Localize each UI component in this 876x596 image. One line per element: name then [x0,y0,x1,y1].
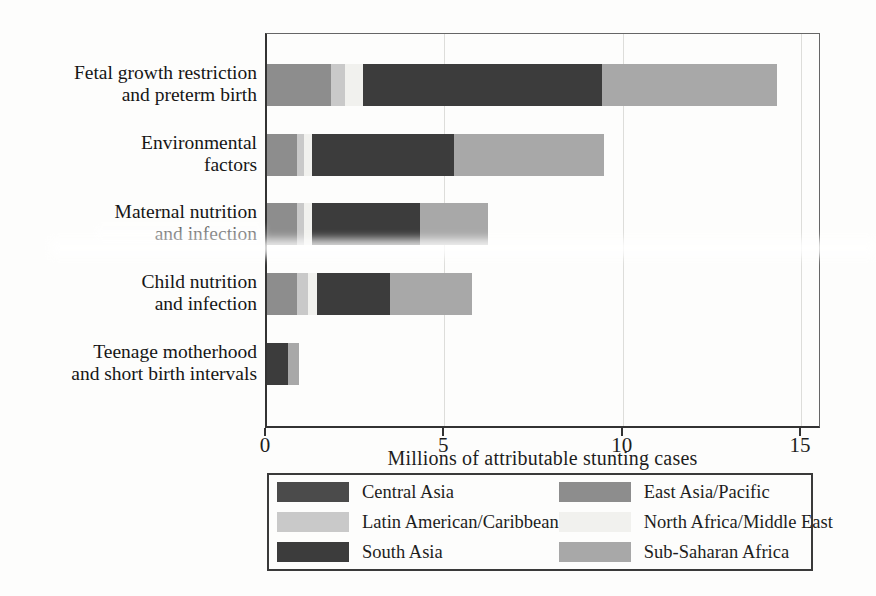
legend-swatch [277,542,349,562]
bar-segment [454,134,604,176]
legend-label: Sub-Saharan Africa [644,542,789,563]
gridline-15 [801,34,802,426]
legend-item: Sub-Saharan Africa [559,542,833,563]
legend-label: Central Asia [362,482,454,503]
legend-swatch [277,512,349,532]
bar-segment [297,203,304,245]
category-label-line: and infection [0,223,257,245]
bar-segment [317,273,390,315]
legend-item: Central Asia [277,482,559,503]
category-label-line: factors [0,154,257,176]
category-label-line: Fetal growth restriction [0,62,257,84]
bar-segment [420,203,488,245]
category-label: Maternal nutritionand infection [0,201,257,245]
category-label-line: Child nutrition [0,271,257,293]
bar-segment [345,64,363,106]
category-label-line: Maternal nutrition [0,201,257,223]
legend-label: North Africa/Middle East [644,512,833,533]
legend-swatch [277,482,349,502]
bar-segment [297,273,308,315]
category-label-line: Environmental [0,132,257,154]
legend-label: Latin American/Caribbean [362,512,559,533]
category-label-line: and short birth intervals [0,363,257,385]
category-label: Environmentalfactors [0,132,257,176]
x-axis-title: Millions of attributable stunting cases [265,447,820,470]
bar-segment [304,203,311,245]
bar-segment [308,273,317,315]
bar-segment [390,273,472,315]
bar-segment [267,64,331,106]
bar-segment [297,134,304,176]
bar-segment [331,64,345,106]
bar-segment [288,343,299,385]
bar-segment [267,203,297,245]
legend-item: Latin American/Caribbean [277,512,559,533]
legend-label: East Asia/Pacific [644,482,770,503]
bar-row-2 [267,134,604,176]
bar-row-3 [267,203,488,245]
bar-segment [304,134,311,176]
stunting-cases-stacked-bar-chart: Fetal growth restrictionand preterm birt… [0,0,876,596]
category-label-line: and preterm birth [0,84,257,106]
category-label: Teenage motherhoodand short birth interv… [0,341,257,385]
category-label-line: Teenage motherhood [0,341,257,363]
plot-area [265,33,820,428]
bar-segment [267,134,297,176]
legend-swatch [559,512,631,532]
bar-segment [602,64,777,106]
legend-item: North Africa/Middle East [559,512,833,533]
bar-segment [312,134,455,176]
legend-swatch [559,482,631,502]
bar-row-1 [267,64,777,106]
legend-swatch [559,542,631,562]
bar-segment [312,203,421,245]
bar-row-4 [267,273,472,315]
bar-segment [267,343,288,385]
bar-segment [363,64,602,106]
legend-item: South Asia [277,542,559,563]
bar-row-5 [267,343,299,385]
legend-label: South Asia [362,542,443,563]
legend-item: East Asia/Pacific [559,482,833,503]
bar-segment [267,273,297,315]
category-label: Fetal growth restrictionand preterm birt… [0,62,257,106]
category-label: Child nutritionand infection [0,271,257,315]
category-label-line: and infection [0,293,257,315]
legend-box: Central AsiaEast Asia/PacificLatin Ameri… [267,473,813,571]
